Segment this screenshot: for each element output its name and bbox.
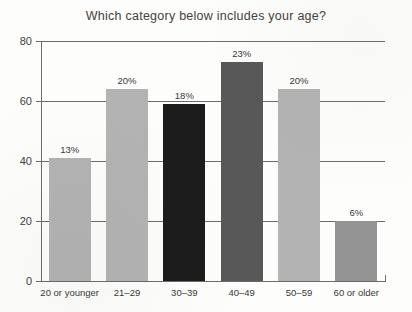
y-tick-label: 60 <box>0 96 32 107</box>
gridline-60 <box>41 101 385 102</box>
bar <box>278 89 320 281</box>
y-tick-label: 0 <box>0 276 32 287</box>
y-tick-label: 20 <box>0 216 32 227</box>
bar-chart-figure: Which category below includes your age? … <box>0 0 412 312</box>
y-tick-mark <box>36 281 42 282</box>
x-tick-label: 60 or older <box>316 288 396 298</box>
bar-value-label: 18% <box>151 91 217 101</box>
bar <box>221 62 263 281</box>
bar-value-label: 20% <box>94 76 160 86</box>
y-tick-label: 40 <box>0 156 32 167</box>
bar-value-label: 6% <box>323 208 389 218</box>
gridline-40 <box>41 161 385 162</box>
chart-title: Which category below includes your age? <box>0 9 412 23</box>
x-axis-line <box>41 281 386 282</box>
bar <box>163 104 205 281</box>
bar <box>106 89 148 281</box>
bar-value-label: 13% <box>37 145 103 155</box>
y-tick-label: 80 <box>0 36 32 47</box>
bar <box>49 158 91 281</box>
bar <box>335 221 377 281</box>
gridline-80 <box>41 41 385 42</box>
bar-value-label: 23% <box>209 49 275 59</box>
plot-area: 13%20%18%23%20%6% <box>41 41 385 281</box>
gridline-20 <box>41 221 385 222</box>
bar-value-label: 20% <box>266 76 332 86</box>
x-axis-end-tick <box>385 275 386 282</box>
